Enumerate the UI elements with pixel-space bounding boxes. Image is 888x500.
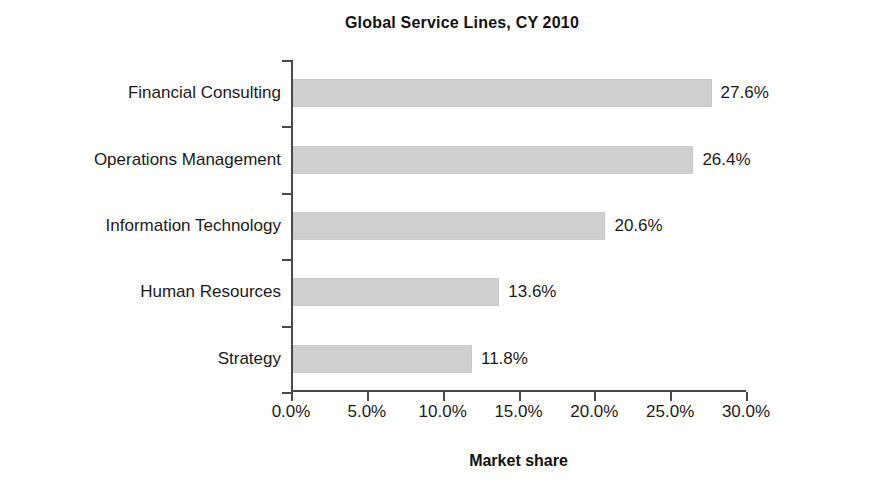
y-axis-tick bbox=[282, 126, 291, 128]
y-axis-category-labels: Financial ConsultingOperations Managemen… bbox=[11, 60, 281, 392]
x-axis-tick-label: 10.0% bbox=[419, 402, 467, 422]
bar[interactable] bbox=[293, 146, 693, 174]
y-axis-category-label: Financial Consulting bbox=[11, 83, 281, 103]
bar-row[interactable]: 13.6% bbox=[293, 261, 556, 323]
x-axis-tick-label: 30.0% bbox=[722, 402, 770, 422]
x-axis-tick-label: 25.0% bbox=[646, 402, 694, 422]
bar[interactable] bbox=[293, 212, 605, 240]
y-axis-category-label: Strategy bbox=[11, 349, 281, 369]
y-axis-category-label: Human Resources bbox=[11, 282, 281, 302]
x-axis-tick-label: 0.0% bbox=[272, 402, 311, 422]
bar[interactable] bbox=[293, 278, 499, 306]
x-axis-title: Market share bbox=[291, 452, 746, 470]
y-axis-tick bbox=[282, 60, 291, 62]
x-axis-tick-label: 15.0% bbox=[494, 402, 542, 422]
plot-area: 27.6%26.4%20.6%13.6%11.8% bbox=[291, 60, 746, 392]
bar-row[interactable]: 11.8% bbox=[293, 328, 528, 390]
bar-value-label: 13.6% bbox=[508, 282, 556, 302]
y-axis-tick bbox=[282, 392, 291, 394]
bar-value-label: 27.6% bbox=[721, 83, 769, 103]
y-axis-tick bbox=[282, 259, 291, 261]
bar-value-label: 20.6% bbox=[614, 216, 662, 236]
x-axis-tick-label: 5.0% bbox=[347, 402, 386, 422]
y-axis-category-label: Operations Management bbox=[11, 150, 281, 170]
x-axis-tick bbox=[746, 392, 748, 401]
y-axis-category-label: Information Technology bbox=[11, 216, 281, 236]
bar-chart-figure: Global Service Lines, CY 2010 Financial … bbox=[0, 0, 888, 500]
bar-row[interactable]: 27.6% bbox=[293, 62, 769, 124]
bar-row[interactable]: 26.4% bbox=[293, 129, 751, 191]
chart-title: Global Service Lines, CY 2010 bbox=[0, 14, 888, 32]
y-axis-tick bbox=[282, 193, 291, 195]
bar-value-label: 26.4% bbox=[702, 150, 750, 170]
bar-value-label: 11.8% bbox=[481, 349, 528, 369]
bar[interactable] bbox=[293, 79, 712, 107]
x-axis-tick-label: 20.0% bbox=[570, 402, 618, 422]
bar[interactable] bbox=[293, 345, 472, 373]
x-axis-tick-labels: 0.0%5.0%10.0%15.0%20.0%25.0%30.0% bbox=[291, 392, 746, 422]
bar-row[interactable]: 20.6% bbox=[293, 195, 663, 257]
y-axis-tick bbox=[282, 326, 291, 328]
